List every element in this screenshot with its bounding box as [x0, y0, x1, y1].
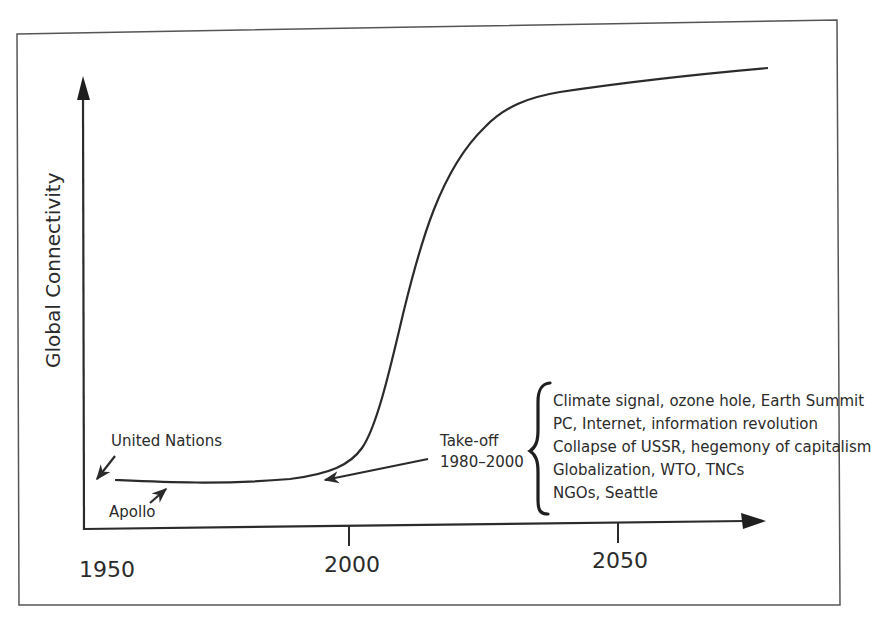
driver-item: Climate signal, ozone hole, Earth Summit [553, 392, 864, 410]
driver-item: Collapse of USSR, hegemony of capitalism [553, 438, 871, 456]
y-axis-label: Global Connectivity [41, 172, 65, 368]
x-axis-arrow-icon [741, 513, 766, 529]
connectivity-diagram: Global Connectivity 1950 2000 2050 Unite… [0, 0, 882, 625]
x-tick-label-1950: 1950 [79, 557, 135, 582]
annotation-takeoff-years: 1980–2000 [440, 453, 524, 471]
x-tick-label-2050: 2050 [592, 548, 648, 573]
driver-item: NGOs, Seattle [553, 484, 658, 502]
driver-item: PC, Internet, information revolution [553, 415, 818, 433]
y-axis-arrow-icon [77, 76, 90, 100]
takeoff-drivers-list: Climate signal, ozone hole, Earth Summit… [553, 392, 871, 502]
curly-brace-icon [530, 383, 550, 514]
x-tick-label-2000: 2000 [324, 552, 380, 577]
takeoff-arrow-icon [325, 459, 428, 480]
apollo-arrow-icon [150, 489, 166, 503]
annotation-takeoff-label: Take-off [439, 432, 499, 450]
annotation-apollo: Apollo [109, 503, 155, 521]
driver-item: Globalization, WTO, TNCs [553, 461, 745, 479]
united-nations-arrow-icon [97, 456, 115, 479]
y-axis [77, 76, 90, 530]
annotation-united-nations: United Nations [111, 432, 222, 450]
x-axis [84, 513, 766, 546]
